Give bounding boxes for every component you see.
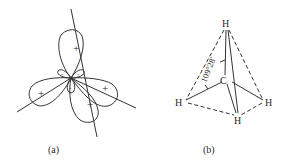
edge-top-right [229,30,263,100]
sign-small-lower: - [69,84,72,92]
tetrahedron-diagram [186,30,263,115]
sign-bottom-right-lobe: + [87,98,93,110]
bond-c-top [225,30,226,75]
bond-c-left [186,82,222,100]
atom-c-center: C [220,75,227,86]
bond-angle-label: 109°28' [199,55,218,83]
edge-right-bottom [241,103,262,115]
diagram-canvas: + + + + - - - (a) H C H H H 109°28' (b) [0,0,287,167]
atom-h-right: H [265,97,272,108]
atom-h-bottom: H [234,115,241,126]
sign-right-lobe: + [102,82,108,94]
orbital-small-lobe-upper-left [58,70,71,78]
atom-h-top: H [222,18,229,29]
edge-left-bottom [188,103,234,115]
orbital-lobe-right [71,78,118,107]
atom-h-left: H [175,97,182,108]
angle-mark-lower [205,85,208,89]
angle-mark-upper [220,60,225,62]
caption-a: (a) [48,144,59,156]
sign-top-lobe: + [73,42,79,54]
sign-left-lobe: + [38,87,44,99]
caption-b: (b) [203,144,215,156]
edge-top-bottom [228,30,238,113]
